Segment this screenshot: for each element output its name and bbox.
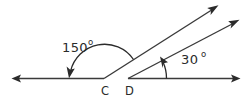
angle-label-150: 150 o [62, 37, 93, 55]
angle-diagram-figure: 150 o 30 o C D [0, 0, 252, 102]
ray-D-upright-segment [128, 23, 235, 79]
angle-label-30-value: 30 [181, 52, 198, 67]
vertex-label-D: D [125, 84, 134, 98]
angle-label-150-value: 150 [62, 40, 88, 55]
ray-D-right [128, 75, 241, 83]
vertex-label-C: C [101, 84, 109, 98]
ray-C-upright-segment [104, 9, 214, 79]
angle-arc-at-D [160, 57, 168, 79]
figure-canvas: 150 o 30 o C D [0, 0, 252, 102]
angle-label-30: 30 o [181, 49, 206, 67]
degree-symbol-icon: o [88, 37, 93, 47]
ray-C-left [12, 75, 105, 83]
ray-D-upright [128, 20, 240, 79]
arrow-upright-c-icon [207, 5, 218, 15]
angle-arc-at-D-path [163, 62, 167, 79]
arrow-upright-d-icon [228, 20, 239, 29]
degree-symbol-icon: o [201, 49, 206, 59]
ray-C-upright [104, 5, 219, 78]
